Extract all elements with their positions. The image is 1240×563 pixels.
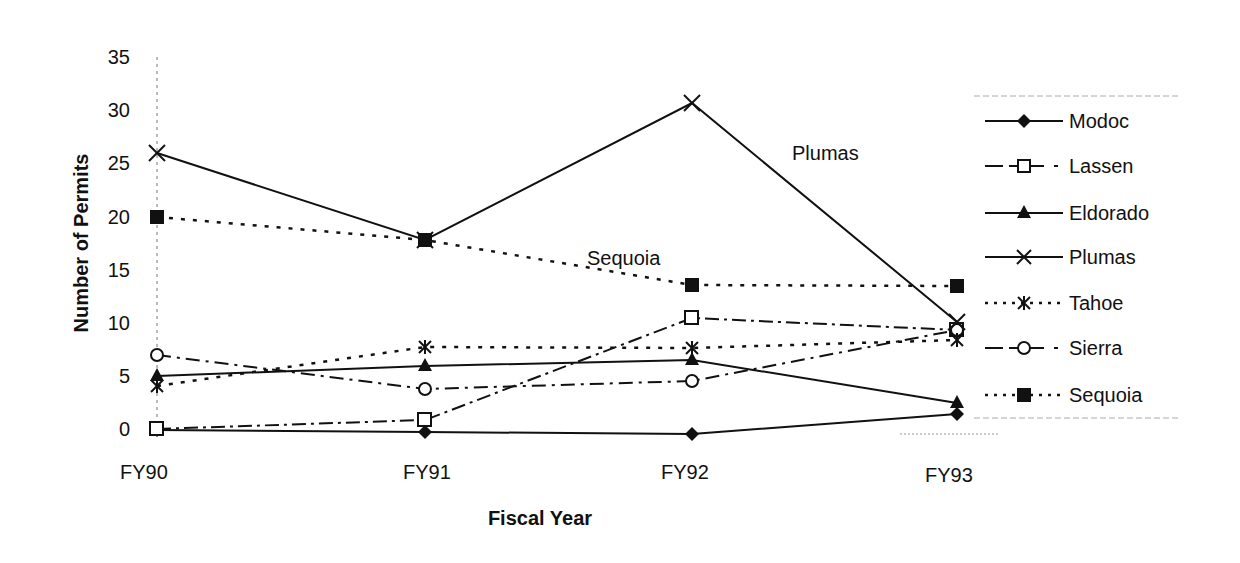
y-tick-10: 10	[108, 312, 130, 334]
x-tick-fy90: FY90	[120, 461, 168, 483]
x-tick-labels: FY90 FY91 FY92 FY93	[120, 461, 973, 486]
series-sequoia-markers	[150, 210, 964, 293]
y-tick-20: 20	[108, 206, 130, 228]
y-tick-35: 35	[108, 46, 130, 68]
legend-item-lassen: Lassen	[985, 155, 1134, 177]
series-lassen-markers	[150, 311, 963, 435]
series-plumas-line	[157, 103, 957, 322]
svg-text:Tahoe: Tahoe	[1069, 292, 1124, 314]
legend-item-eldorado: Eldorado	[985, 202, 1149, 224]
series-lassen-line	[157, 318, 957, 429]
legend-item-plumas: Plumas	[985, 246, 1136, 268]
x-axis-title: Fiscal Year	[488, 507, 592, 529]
y-tick-labels: 0 5 10 15 20 25 30 35	[108, 46, 130, 440]
x-tick-fy93: FY93	[925, 464, 973, 486]
x-tick-fy91: FY91	[403, 461, 451, 483]
annotation-sequoia: Sequoia	[587, 247, 661, 269]
series-modoc-markers	[150, 407, 964, 441]
legend-item-sequoia: Sequoia	[985, 384, 1143, 406]
annotation-plumas: Plumas	[792, 142, 859, 164]
y-tick-25: 25	[108, 152, 130, 174]
series-sequoia-line	[157, 217, 957, 286]
legend-item-tahoe: Tahoe	[985, 292, 1124, 314]
legend-item-modoc: Modoc	[985, 110, 1129, 132]
series-sierra-line	[157, 330, 957, 389]
svg-text:Eldorado: Eldorado	[1069, 202, 1149, 224]
x-tick-fy92: FY92	[661, 461, 709, 483]
series-plumas-markers	[149, 95, 965, 330]
series-eldorado-line	[157, 360, 957, 403]
y-tick-15: 15	[108, 259, 130, 281]
svg-text:Modoc: Modoc	[1069, 110, 1129, 132]
legend: Modoc Lassen Eldorado Plumas	[974, 96, 1180, 418]
y-tick-5: 5	[119, 365, 130, 387]
svg-text:Sierra: Sierra	[1069, 337, 1123, 359]
svg-text:Sequoia: Sequoia	[1069, 384, 1143, 406]
legend-item-sierra: Sierra	[985, 337, 1123, 359]
line-chart: 0 5 10 15 20 25 30 35 Number of Permits …	[0, 0, 1240, 563]
y-tick-30: 30	[108, 99, 130, 121]
y-tick-0: 0	[119, 418, 130, 440]
y-axis-title: Number of Permits	[70, 154, 92, 333]
series-eldorado-markers	[150, 352, 964, 408]
svg-text:Plumas: Plumas	[1069, 246, 1136, 268]
svg-text:Lassen: Lassen	[1069, 155, 1134, 177]
